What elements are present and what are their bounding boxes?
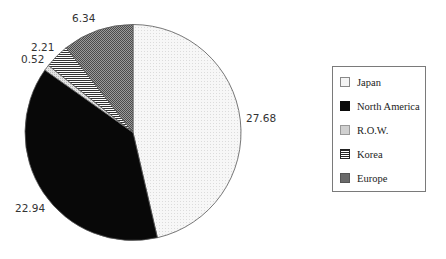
swatch-korea-icon bbox=[340, 149, 350, 159]
legend-label: R.O.W. bbox=[357, 125, 388, 136]
legend-label: Japan bbox=[357, 77, 381, 88]
legend-label: Korea bbox=[357, 149, 383, 160]
legend-item-korea: Korea bbox=[340, 147, 383, 161]
swatch-japan-icon bbox=[340, 77, 350, 87]
swatch-north-america-icon bbox=[340, 101, 350, 111]
legend-item-japan: Japan bbox=[340, 75, 381, 89]
legend: Japan North America R.O.W. Korea Europe bbox=[332, 66, 426, 192]
legend-label: North America bbox=[357, 101, 420, 112]
swatch-row-icon bbox=[340, 125, 350, 135]
label-japan: 27.68 bbox=[246, 112, 276, 124]
label-korea: 2.21 bbox=[31, 41, 54, 53]
legend-item-north-america: North America bbox=[340, 99, 420, 113]
swatch-europe-icon bbox=[340, 173, 350, 183]
pie-slices bbox=[25, 24, 241, 240]
legend-item-europe: Europe bbox=[340, 171, 387, 185]
legend-label: Europe bbox=[357, 173, 387, 184]
label-north-america: 22.94 bbox=[15, 202, 45, 214]
legend-item-row: R.O.W. bbox=[340, 123, 388, 137]
label-europe: 6.34 bbox=[72, 12, 96, 24]
label-row: 0.52 bbox=[21, 53, 44, 65]
